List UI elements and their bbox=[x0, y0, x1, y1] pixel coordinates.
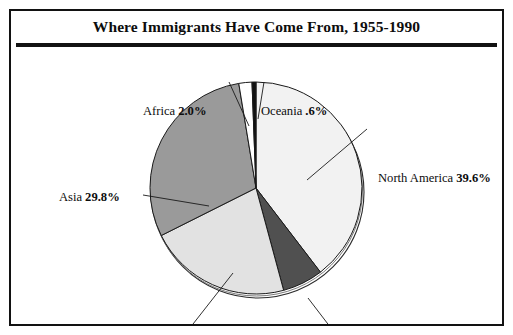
pie-chart-svg bbox=[11, 49, 502, 324]
pie-label-north-america: North America39.6% bbox=[378, 172, 491, 185]
pie-label-oceania: Oceania.6% bbox=[261, 105, 327, 118]
pie-label-africa-value: 2.0% bbox=[178, 104, 206, 118]
pie-label-africa: Africa2.0% bbox=[143, 105, 207, 118]
chart-figure: Where Immigrants Have Come From, 1955-19… bbox=[0, 0, 513, 335]
pie-label-africa-name: Africa bbox=[143, 104, 175, 118]
pie-label-asia-value: 29.8% bbox=[85, 190, 120, 204]
page-title: Where Immigrants Have Come From, 1955-19… bbox=[93, 18, 420, 36]
pie-label-north-america-value: 39.6% bbox=[456, 171, 491, 185]
pie-plot-area: Africa2.0% Oceania.6% North America39.6%… bbox=[11, 49, 502, 324]
pie-label-north-america-name: North America bbox=[378, 171, 453, 185]
pie-label-asia: Asia29.8% bbox=[59, 191, 120, 204]
leader-line-south-america bbox=[308, 298, 344, 324]
pie-label-asia-name: Asia bbox=[59, 190, 82, 204]
chart-title-block: Where Immigrants Have Come From, 1955-19… bbox=[11, 11, 502, 43]
pie-label-oceania-name: Oceania bbox=[261, 104, 302, 118]
pie-label-oceania-value: .6% bbox=[305, 104, 327, 118]
title-underline-rule bbox=[16, 43, 497, 47]
